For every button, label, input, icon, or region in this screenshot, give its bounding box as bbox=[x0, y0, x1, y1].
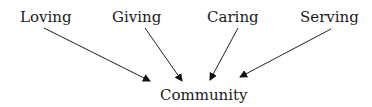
arrow-serving-community bbox=[240, 29, 331, 77]
arrow-giving-community bbox=[145, 28, 182, 81]
arrow-caring-community bbox=[210, 28, 238, 80]
arrow-loving-community bbox=[44, 28, 150, 81]
arrows bbox=[0, 0, 372, 107]
